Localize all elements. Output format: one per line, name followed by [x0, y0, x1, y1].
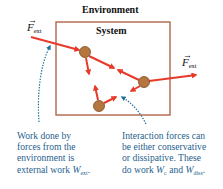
- interaction-arrow-1to3: [86, 58, 89, 74]
- interaction-arrow-3to1: [95, 86, 98, 100]
- interaction-arrow-1to2: [89, 56, 114, 68]
- caption-line: or dissipative. These: [122, 152, 223, 163]
- force-subscript: ext: [34, 27, 42, 34]
- external-force-arrow-right: [149, 75, 196, 81]
- work-symbol: W: [156, 164, 164, 175]
- interaction-arrow-2to1: [118, 70, 139, 80]
- system-label: System: [96, 25, 127, 36]
- particle-3: [94, 101, 105, 112]
- work-subscript: ext: [80, 170, 87, 176]
- vector-arrow-icon: →: [183, 50, 192, 60]
- pointer-left-dotted: [38, 46, 50, 122]
- caption-line: do work Wc and Wdiss.: [122, 164, 223, 179]
- environment-label: Environment: [82, 4, 139, 15]
- caption-line: external work Wext.: [17, 164, 107, 179]
- caption-line: environment is: [17, 152, 107, 163]
- caption-external-work: Work done by forces from the environment…: [17, 130, 107, 179]
- interaction-arrow-2to3: [131, 86, 140, 91]
- force-subscript: ext: [189, 62, 197, 69]
- work-subscript: diss: [193, 170, 202, 176]
- caption-line: Interaction forces can: [122, 130, 223, 141]
- caption-line: forces from the: [17, 141, 107, 152]
- caption-punct: .: [88, 164, 90, 175]
- pointer-right-dotted: [122, 97, 146, 124]
- caption-text: and: [167, 164, 186, 175]
- caption-text: external work: [17, 164, 72, 175]
- caption-interaction-forces: Interaction forces can be either conserv…: [122, 130, 223, 179]
- caption-text: do work: [122, 164, 156, 175]
- caption-line: be either conservative: [122, 141, 223, 152]
- interaction-arrow-3to2: [104, 97, 116, 103]
- caption-line: Work done by: [17, 130, 107, 141]
- force-label-right: →Fext: [182, 56, 197, 69]
- caption-punct: .: [203, 164, 205, 175]
- vector-arrow-icon: →: [28, 15, 37, 25]
- particle-1: [80, 47, 91, 58]
- diagram-canvas: Environment System →Fext →Fext Work done…: [0, 0, 223, 189]
- particle-2: [139, 77, 150, 88]
- external-force-arrow-left: [31, 37, 79, 50]
- force-label-left: →Fext: [27, 21, 42, 34]
